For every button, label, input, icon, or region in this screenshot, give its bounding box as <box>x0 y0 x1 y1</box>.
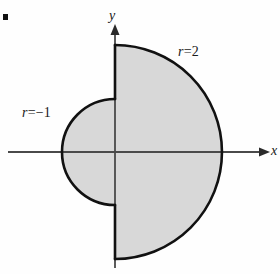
y-axis-arrowhead <box>111 24 120 35</box>
outer-curve-label-equals: = <box>184 44 192 59</box>
x-axis-arrowhead <box>259 148 270 157</box>
polar-figure-container: r=2 r=−1 y x <box>0 0 280 274</box>
outer-curve-label: r=2 <box>178 44 199 60</box>
x-axis-label: x <box>271 143 277 159</box>
outer-curve-label-value: 2 <box>192 44 199 59</box>
polar-figure-svg <box>0 0 280 274</box>
inner-curve-label: r=−1 <box>22 105 51 121</box>
inner-curve-label-value: −1 <box>36 105 51 120</box>
y-axis-label: y <box>109 8 115 24</box>
inner-curve-label-equals: = <box>28 105 36 120</box>
